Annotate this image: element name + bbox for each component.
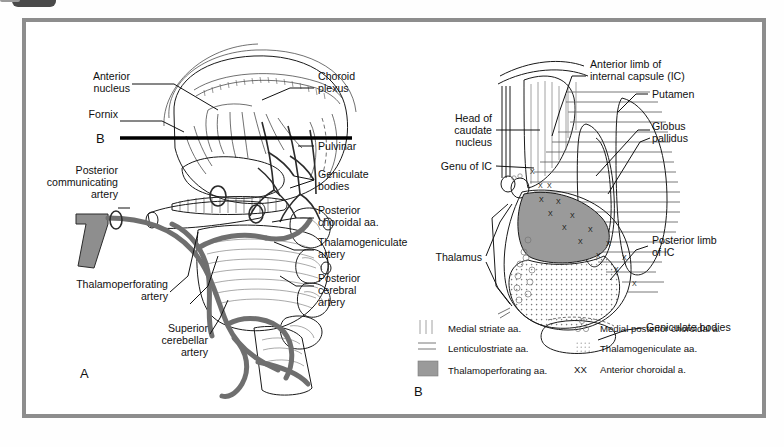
- panel-b: XXX XXX XX XX XX XX X Anterior li: [400, 18, 784, 418]
- legend-swatch-fine-dots: [574, 340, 592, 352]
- label-sca-1: Superior: [168, 322, 209, 334]
- top-left-edge-artifact: [0, 0, 20, 2]
- label-globus-pallidus-2: pallidus: [652, 132, 688, 144]
- legend-label-anterior-choroidal: Anterior choroidal a.: [600, 364, 686, 375]
- svg-text:X: X: [570, 212, 575, 219]
- label-thalamus: Thalamus: [435, 251, 482, 263]
- label-posterior-limb-ic-1: Posterior limb: [652, 234, 717, 246]
- svg-text:X: X: [547, 182, 552, 189]
- label-pca-3: artery: [318, 296, 346, 308]
- panel-b-letter: B: [414, 384, 423, 399]
- label-sca-3: artery: [181, 346, 209, 358]
- label-pca-1: Posterior: [318, 272, 361, 284]
- label-thalamogeniculate-1: Thalamogeniculate: [318, 236, 408, 248]
- label-posterior-choroidal-1: Posterior: [318, 204, 361, 216]
- legend-swatch-xx: XX: [574, 364, 587, 375]
- section-letter-b: B: [96, 131, 105, 146]
- label-sca-2: cerebellar: [161, 334, 208, 346]
- label-fornix: Fornix: [89, 108, 119, 120]
- legend-label-medial-striate: Medial striate aa.: [448, 323, 521, 334]
- svg-text:X: X: [578, 238, 583, 245]
- panel-a-letter: A: [80, 366, 89, 381]
- svg-text:X: X: [538, 182, 543, 189]
- label-genu-of-ic: Genu of IC: [441, 160, 493, 172]
- svg-text:X: X: [606, 240, 611, 247]
- label-pcom-2: communicating: [47, 176, 118, 188]
- cortex-outline: [498, 61, 588, 84]
- panel-a: Anterior nucleus Fornix B Choroid plexus…: [22, 18, 412, 418]
- svg-text:X: X: [530, 168, 535, 175]
- svg-text:X: X: [588, 226, 593, 233]
- legend-swatch-horizontal-lines: [418, 343, 436, 349]
- label-choroid-plexus-1: Choroid: [318, 70, 355, 82]
- figure-page: Anterior nucleus Fornix B Choroid plexus…: [0, 0, 784, 447]
- label-thalamoperforating-1: Thalamoperforating: [76, 278, 168, 290]
- label-putamen: Putamen: [652, 88, 695, 100]
- svg-text:X: X: [539, 196, 544, 203]
- label-posterior-limb-ic-2: of IC: [652, 246, 675, 258]
- svg-text:X: X: [632, 280, 637, 287]
- label-geniculate-bodies-2: bodies: [318, 180, 349, 192]
- label-anterior-nucleus-1: Anterior: [93, 70, 131, 82]
- label-head-caudate-2: caudate: [454, 124, 492, 136]
- label-choroid-plexus-2: plexus: [318, 82, 349, 94]
- label-pca-2: cerebral: [318, 284, 356, 296]
- label-pcom-3: artery: [91, 188, 119, 200]
- legend-label-lenticulostriate: Lenticulostriate aa.: [448, 343, 529, 354]
- label-head-caudate-1: Head of: [455, 112, 492, 124]
- legend-label-thalamoperforating: Thalamoperforating aa.: [448, 365, 547, 376]
- label-anterior-nucleus-2: nucleus: [93, 82, 130, 94]
- thalamus: [492, 190, 631, 330]
- label-thalamoperforating-2: artery: [141, 290, 169, 302]
- legend-swatch-solid-gray: [418, 361, 438, 376]
- legend-label-medial-posterior-choroidal: Medial posterior choroidal a.: [600, 323, 721, 334]
- svg-text:X: X: [556, 198, 561, 205]
- svg-text:X: X: [596, 252, 601, 259]
- svg-text:X: X: [562, 224, 567, 231]
- legend-label-thalamogeniculate: Thalamogeniculate aa.: [600, 343, 697, 354]
- label-head-caudate-3: nucleus: [455, 136, 492, 148]
- label-posterior-choroidal-2: choroidal aa.: [318, 216, 379, 228]
- label-geniculate-bodies-1: Geniculate: [318, 168, 369, 180]
- label-pcom-1: Posterior: [76, 164, 119, 176]
- label-anterior-limb-ic-2: internal capsule (IC): [590, 70, 685, 82]
- label-globus-pallidus-1: Globus: [652, 120, 686, 132]
- svg-text:X: X: [622, 254, 627, 261]
- svg-text:X: X: [548, 210, 553, 217]
- label-pulvinar: Pulvinar: [318, 140, 357, 152]
- label-anterior-limb-ic-1: Anterior limb of: [590, 58, 661, 70]
- legend-swatch-vertical-lines: [420, 320, 432, 334]
- label-thalamogeniculate-2: artery: [318, 248, 346, 260]
